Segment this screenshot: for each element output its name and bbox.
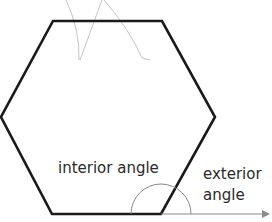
exterior-angle-label-line1: exterior	[203, 165, 262, 183]
hexagon-angle-diagram: interior angle exterior angle	[0, 0, 272, 222]
arrowhead-icon	[262, 210, 270, 218]
sketch-marks	[66, 0, 150, 60]
interior-angle-label: interior angle	[58, 159, 159, 177]
exterior-angle-label-line2: angle	[203, 186, 245, 204]
angle-arc	[131, 184, 191, 214]
hexagon	[1, 21, 215, 214]
